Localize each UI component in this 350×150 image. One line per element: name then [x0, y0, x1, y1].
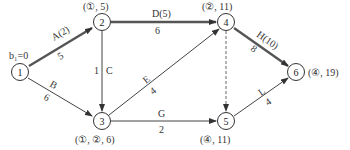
edge-c: 1 C — [94, 31, 113, 111]
node-1: 1 — [12, 64, 29, 81]
edge-a-name: A(2) — [49, 24, 71, 44]
start-label: b₁=0 — [9, 50, 28, 61]
node-4-annotation: (②, 11) — [202, 1, 232, 13]
edge-c-name: C — [106, 65, 113, 76]
node-6-id: 6 — [294, 67, 299, 78]
edge-b-name: B — [48, 78, 60, 91]
edge-d-name: D(5) — [152, 8, 171, 20]
node-3-annotation: (①, ②, 6) — [75, 134, 115, 146]
network-diagram: A(2) 5 B 6 1 C D(5) 6 E 4 G 2 H(10) 8 — [0, 0, 350, 150]
node-4: 4 — [218, 14, 235, 31]
node-6: 6 — [288, 64, 305, 81]
edge-h-weight: 8 — [249, 43, 259, 55]
edge-e-weight: 4 — [147, 85, 158, 97]
edge-d-weight: 6 — [155, 25, 160, 36]
node-3: 3 — [94, 113, 111, 130]
node-3-id: 3 — [100, 116, 105, 127]
node-6-annotation: (④, 19) — [308, 67, 339, 79]
edge-h-name: H(10) — [254, 29, 280, 53]
edge-g: G 2 — [111, 108, 216, 135]
node-5-annotation: (④, 11) — [200, 134, 230, 146]
edge-a: A(2) 5 — [29, 24, 92, 66]
node-1-id: 1 — [18, 67, 23, 78]
edge-h: H(10) 8 — [234, 28, 288, 66]
edge-l-weight: 4 — [263, 96, 273, 108]
node-4-id: 4 — [224, 17, 229, 28]
edge-b-weight: 6 — [42, 91, 52, 103]
edge-a-weight: 5 — [55, 50, 65, 62]
edge-b: B 6 — [28, 78, 92, 116]
node-5-id: 5 — [224, 116, 229, 127]
node-2: 2 — [94, 14, 111, 31]
edge-e: E 4 — [109, 29, 219, 115]
node-2-id: 2 — [100, 17, 105, 28]
edge-c-weight: 1 — [94, 65, 99, 76]
edge-l: L 4 — [234, 78, 288, 116]
edge-e-name: E — [140, 73, 152, 85]
edge-g-name: G — [158, 108, 165, 119]
edge-d: D(5) 6 — [111, 8, 216, 36]
edge-g-weight: 2 — [159, 124, 164, 135]
node-5: 5 — [218, 113, 235, 130]
node-2-annotation: (①, 5) — [83, 1, 109, 13]
